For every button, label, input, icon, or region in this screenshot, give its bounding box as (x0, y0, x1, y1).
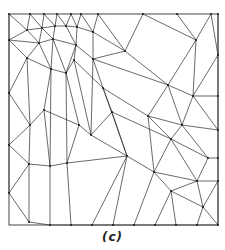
mesh-edge (77, 27, 93, 32)
mesh-edge (9, 164, 29, 193)
mesh-edge (53, 26, 55, 39)
mesh-vertex (142, 13, 144, 15)
mesh-vertex (66, 162, 68, 164)
mesh-edge (53, 39, 66, 73)
mesh-edge (148, 116, 182, 125)
mesh-vertex (207, 157, 209, 159)
mesh-edge (91, 135, 127, 156)
mesh-edge (67, 163, 71, 225)
mesh-vertex (176, 13, 178, 15)
mesh-edge (27, 30, 39, 43)
mesh-edge (29, 164, 50, 166)
mesh-vertex (73, 59, 75, 61)
mesh-edge (171, 191, 176, 225)
mesh-edge (27, 43, 39, 58)
mesh-edge (51, 69, 66, 73)
mesh-vertex (217, 13, 219, 15)
mesh-edge (9, 30, 27, 40)
mesh-vertex (175, 224, 177, 226)
mesh-vertex (92, 31, 94, 33)
mesh-edge (103, 88, 127, 156)
mesh-edge (134, 172, 154, 225)
mesh-vertex (41, 27, 43, 29)
mesh-vertex (92, 58, 94, 60)
mesh-vertex (28, 221, 30, 223)
mesh-vertex (217, 157, 219, 159)
mesh-edge (39, 39, 53, 43)
mesh-edge (55, 14, 57, 26)
mesh-edge (42, 14, 44, 28)
triangular-mesh (0, 0, 225, 232)
mesh-vertex (90, 134, 92, 136)
mesh-edge (93, 32, 125, 51)
mesh-vertex (112, 224, 114, 226)
mesh-vertex (102, 87, 104, 89)
mesh-edge (91, 112, 112, 135)
mesh-vertex (8, 192, 10, 194)
mesh-edge (66, 73, 67, 163)
mesh-vertex (49, 165, 51, 167)
mesh-vertex (65, 72, 67, 74)
mesh-edge (9, 14, 27, 30)
mesh-vertex (181, 124, 183, 126)
mesh-vertex (217, 95, 219, 97)
mesh-edge (42, 28, 53, 39)
mesh-vertex (195, 39, 197, 41)
mesh-edge (93, 59, 168, 85)
mesh-edge (193, 40, 196, 96)
mesh-edge (66, 26, 76, 45)
mesh-vertex (38, 42, 40, 44)
mesh-edge (168, 85, 182, 125)
mesh-vertex (56, 13, 58, 15)
mesh-edge (39, 43, 51, 69)
mesh-vertex (52, 38, 54, 40)
mesh-edge (91, 59, 93, 135)
mesh-edge (203, 207, 218, 225)
mesh-vertex (75, 44, 77, 46)
mesh-edge (168, 85, 193, 96)
mesh-vertex (43, 109, 45, 111)
mesh-edge (197, 158, 208, 181)
mesh-vertex (126, 155, 128, 157)
mesh-edge (44, 69, 51, 110)
mesh-vertex (167, 84, 169, 86)
mesh-vertex (26, 57, 28, 59)
mesh-edge (44, 14, 55, 26)
mesh-edge (27, 58, 30, 125)
mesh-edge (196, 14, 211, 40)
mesh-edge (66, 45, 76, 73)
mesh-edge (39, 28, 42, 43)
mesh-edge (143, 14, 196, 40)
mesh-vertex (91, 224, 93, 226)
mesh-edge (71, 14, 77, 27)
mesh-edge (67, 125, 79, 163)
mesh-edge (9, 58, 27, 93)
mesh-vertex (28, 163, 30, 165)
mesh-edge (182, 125, 208, 158)
figure-caption: (c) (0, 230, 225, 244)
mesh-edge (81, 14, 93, 32)
mesh-edge (9, 40, 39, 43)
mesh-vertex (217, 54, 219, 56)
mesh-vertex (217, 180, 219, 182)
mesh-edge (193, 96, 218, 130)
mesh-vertex (50, 68, 52, 70)
mesh-edge (171, 191, 203, 207)
mesh-edge (127, 156, 154, 172)
mesh-edge (113, 156, 127, 225)
mesh-vertex (8, 92, 10, 94)
mesh-vertex (80, 13, 82, 15)
mesh-edge (98, 14, 125, 51)
mesh-edge (42, 26, 55, 28)
mesh-edge (50, 69, 51, 166)
mesh-edges (9, 14, 218, 225)
mesh-vertex (78, 124, 80, 126)
mesh-vertex (111, 111, 113, 113)
mesh-vertex (8, 39, 10, 41)
mesh-edge (27, 58, 51, 69)
mesh-edge (171, 125, 182, 139)
mesh-edge (30, 110, 44, 125)
mesh-edge (9, 93, 30, 125)
mesh-edge (197, 181, 203, 207)
mesh-edge (9, 145, 29, 164)
